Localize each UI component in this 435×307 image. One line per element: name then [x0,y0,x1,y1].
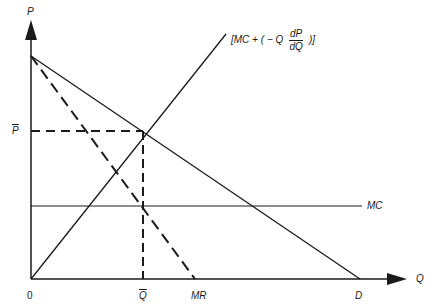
mc-plus-prefix: [MC + ( − Q [231,34,283,45]
demand-curve [31,56,360,279]
p-axis-label: P [27,7,34,17]
d-label: D [355,291,362,301]
origin-label: 0 [27,291,33,301]
mc-plus-markup-label: [MC + ( − Q dP dQ )] [231,28,315,53]
fraction-denominator: dQ [289,41,303,53]
mr-label: MR [191,291,207,301]
marginal-revenue-curve [31,56,195,279]
diagram-canvas [0,0,435,307]
q-bar-label: Q [139,291,147,301]
dp-dq-fraction: dP dQ [289,28,303,53]
q-axis-label: Q [416,274,424,284]
y-axis-arrow-icon [25,20,37,40]
mc-plus-markup-curve [31,34,226,279]
mc-label: MC [367,201,383,211]
p-bar-label: P [12,126,19,136]
fraction-numerator: dP [289,28,303,41]
x-axis-arrow-icon [387,273,407,285]
mc-plus-suffix: )] [309,34,315,45]
